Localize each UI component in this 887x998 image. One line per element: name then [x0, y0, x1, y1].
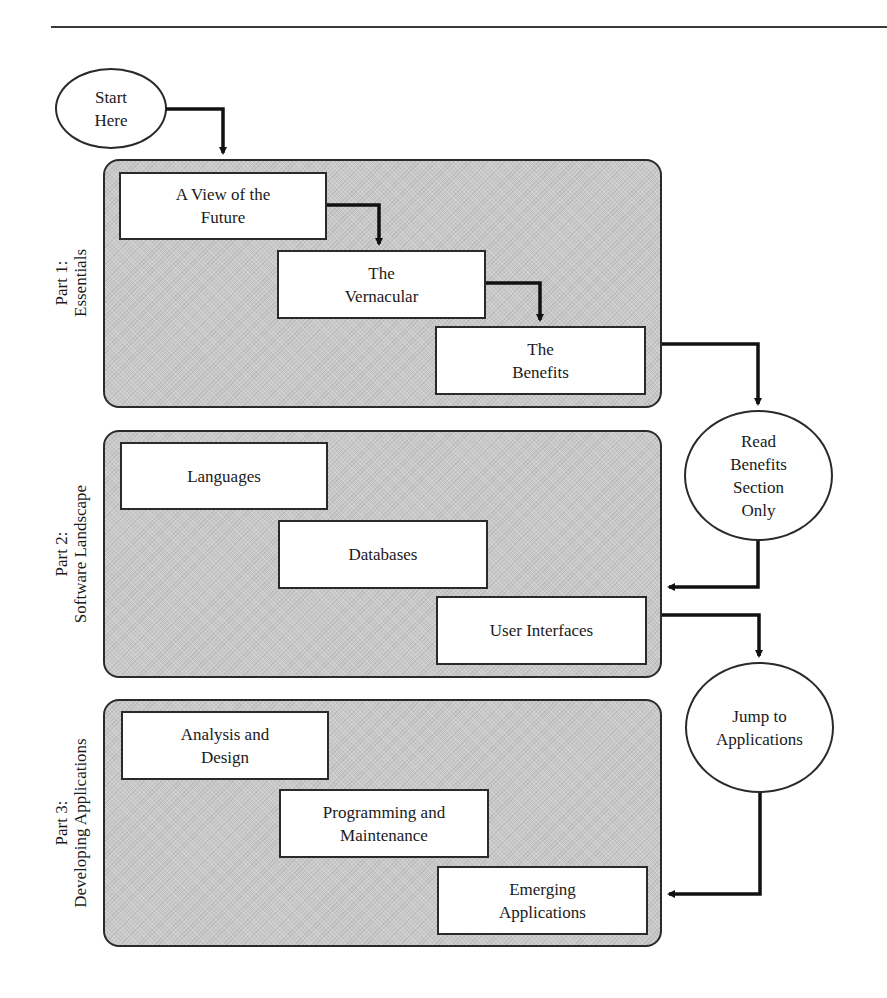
part-2-label: Part 2: Software Landscape	[52, 424, 90, 684]
chapter-box: The Benefits	[435, 326, 646, 395]
read-benefits-node: Read Benefits Section Only	[684, 410, 833, 541]
header-rule	[51, 26, 887, 28]
chapter-box: User Interfaces	[436, 596, 647, 665]
arrow-part1-to-read-benefits	[662, 344, 758, 404]
arrow-jump-to-part3	[669, 793, 760, 894]
jump-to-applications-node: Jump to Applications	[685, 662, 834, 793]
part-3-label: Part 3: Developing Applications	[52, 693, 90, 953]
chapter-box: A View of the Future	[119, 172, 327, 240]
chapter-box: Analysis and Design	[121, 711, 329, 780]
chapter-box: Databases	[278, 520, 488, 589]
read-benefits-label: Read Benefits Section Only	[730, 430, 787, 522]
start-here-node: Start Here	[55, 68, 167, 149]
arrow-read-benefits-to-part2	[669, 541, 758, 587]
start-here-label: Start Here	[94, 86, 127, 132]
arrow-start-to-part1	[166, 109, 223, 153]
chapter-box: Programming and Maintenance	[279, 789, 489, 858]
part-1-label: Part 1: Essentials	[52, 153, 90, 413]
chapter-box: The Vernacular	[277, 250, 486, 319]
arrow-part2-to-jump	[662, 615, 759, 656]
chapter-box: Emerging Applications	[437, 866, 648, 935]
chapter-box: Languages	[120, 442, 328, 510]
jump-to-applications-label: Jump to Applications	[716, 705, 803, 751]
